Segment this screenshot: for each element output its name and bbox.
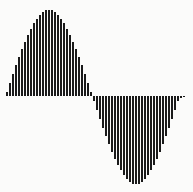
chart-bar bbox=[69, 35, 71, 96]
chart-bar bbox=[105, 96, 107, 136]
chart-bar bbox=[159, 96, 161, 152]
chart-bar bbox=[177, 96, 179, 101]
chart-bar bbox=[84, 74, 86, 96]
chart-bar bbox=[132, 96, 134, 184]
chart-bar bbox=[81, 65, 83, 96]
chart-bar bbox=[66, 29, 68, 96]
chart-bar bbox=[165, 96, 167, 136]
chart-bar bbox=[6, 92, 8, 96]
chart-bar bbox=[141, 96, 143, 182]
chart-bar bbox=[153, 96, 155, 165]
chart-bar bbox=[138, 96, 140, 184]
chart-bar bbox=[129, 96, 131, 182]
chart-bar bbox=[135, 96, 137, 184]
chart-bar bbox=[93, 96, 95, 101]
chart-bar bbox=[42, 12, 44, 96]
chart-bar bbox=[108, 96, 110, 144]
chart-bar bbox=[60, 19, 62, 96]
chart-bar bbox=[144, 96, 146, 179]
chart-bar bbox=[48, 10, 50, 96]
chart-bar bbox=[78, 57, 80, 96]
plot-area bbox=[0, 0, 193, 192]
chart-bar bbox=[162, 96, 164, 144]
chart-bar bbox=[126, 96, 128, 179]
chart-bar bbox=[51, 10, 53, 96]
chart-bar bbox=[63, 23, 65, 96]
chart-bar bbox=[57, 15, 59, 96]
chart-bar bbox=[180, 96, 182, 98]
chart-bar bbox=[18, 57, 20, 96]
chart-bar bbox=[150, 96, 152, 170]
chart-bar bbox=[171, 96, 173, 119]
chart-bar bbox=[87, 83, 89, 96]
chart-bar bbox=[111, 96, 113, 152]
chart-bar bbox=[27, 35, 29, 96]
chart-bar bbox=[168, 96, 170, 128]
chart-bar bbox=[9, 83, 11, 96]
chart-bar bbox=[147, 96, 149, 175]
chart-bar bbox=[36, 19, 38, 96]
chart-bar bbox=[75, 49, 77, 96]
chart-bar bbox=[72, 42, 74, 96]
chart-bar bbox=[45, 10, 47, 96]
chart-bar bbox=[33, 23, 35, 96]
sine-wave-bar-chart bbox=[0, 0, 193, 192]
chart-bar bbox=[114, 96, 116, 159]
chart-bar bbox=[39, 15, 41, 96]
chart-bar bbox=[156, 96, 158, 159]
chart-bar bbox=[102, 96, 104, 128]
chart-bar bbox=[99, 96, 101, 119]
chart-bar bbox=[96, 96, 98, 110]
chart-bar bbox=[24, 42, 26, 96]
chart-bar bbox=[12, 74, 14, 96]
chart-bar bbox=[174, 96, 176, 110]
chart-bar bbox=[54, 12, 56, 96]
chart-bar bbox=[30, 29, 32, 96]
chart-bar bbox=[183, 96, 185, 97]
chart-bar bbox=[15, 65, 17, 96]
chart-bar bbox=[120, 96, 122, 170]
chart-bar bbox=[21, 49, 23, 96]
chart-bar bbox=[123, 96, 125, 175]
chart-bar bbox=[90, 92, 92, 96]
chart-bar bbox=[117, 96, 119, 165]
